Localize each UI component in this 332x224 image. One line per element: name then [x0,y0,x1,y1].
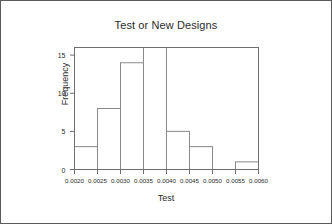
y-tick-label: 5 [52,128,66,135]
x-tick-label: 0.0030 [111,177,130,184]
histogram-bar [98,109,121,170]
histogram-bar [75,147,98,170]
figure-frame: Test or New Designs 0.00200.00250.00300.… [0,0,332,224]
y-tick-label: 0 [52,166,66,173]
histogram-bar [190,147,213,170]
histogram-plot: Test or New Designs 0.00200.00250.00300.… [1,1,331,223]
histogram-bar [121,63,144,170]
histogram-bar [144,48,167,170]
plot-canvas [1,1,331,223]
x-tick-label: 0.0025 [88,177,107,184]
x-tick-label: 0.0040 [157,177,176,184]
histogram-bar [167,131,190,169]
x-axis-label: Test [1,193,331,203]
x-tick-label: 0.0055 [226,177,245,184]
x-tick-label: 0.0045 [180,177,199,184]
x-tick-label: 0.0035 [134,177,153,184]
x-tick-label: 0.0050 [203,177,222,184]
x-tick-label: 0.0060 [249,177,268,184]
x-tick-label: 0.0020 [65,177,84,184]
y-axis-label: Frequency [60,54,70,114]
bars-group [75,48,259,170]
histogram-bar [236,162,259,170]
